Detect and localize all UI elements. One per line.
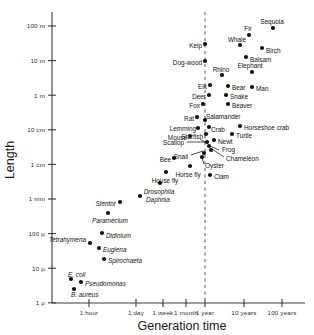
data-point-label: Horse fly [175,171,201,179]
data-point-label: Turtle [236,132,253,139]
data-point-label: Lemming [170,125,197,133]
data-point-label: Euglena [103,246,127,254]
chart-figure: 100 m10 m1 m10 cm1 cm1 mm100 µ10 µ1 µ 1 … [0,0,314,335]
data-point-label: Rhino [213,66,230,73]
data-point-label: Crab [211,126,225,133]
data-point[interactable] [212,138,216,142]
data-point-label: Man [256,85,269,92]
y-tick-label: 10 m [30,57,45,64]
data-point[interactable] [195,115,199,119]
data-point[interactable] [100,231,104,235]
data-point-label: Bee [160,156,172,163]
data-point[interactable] [79,280,83,284]
data-point[interactable] [208,173,212,177]
data-point[interactable] [250,70,254,74]
y-tick-label: 1 cm [31,161,45,168]
y-tick-label: 100 µ [28,230,45,237]
data-point-label: Kelp [189,42,202,50]
data-point[interactable] [224,93,228,97]
data-point-label: Paramecium [92,217,129,224]
data-point-label: Frog [222,146,236,154]
data-point-label: Rat [184,115,194,122]
y-tick-label: 1 m [34,92,45,99]
data-point[interactable] [230,132,234,136]
scatter-plot-canvas: 100 m10 m1 m10 cm1 cm1 mm100 µ10 µ1 µ 1 … [0,0,314,335]
label-leader-line [191,151,203,155]
data-point[interactable] [226,102,230,106]
data-point[interactable] [260,46,264,50]
data-point[interactable] [271,26,275,30]
data-point-label: Snake [230,93,249,100]
data-point[interactable] [203,42,207,46]
data-point[interactable] [201,102,205,106]
data-point-label: House fly [152,177,179,185]
data-point[interactable] [138,194,142,198]
data-point-label: Clam [214,173,229,180]
data-point-label: Daphnia [146,196,170,204]
data-point-label: Horseshoe crab [244,124,290,131]
x-tick-label: 1 week [153,309,175,316]
data-point[interactable] [202,151,206,155]
data-point-label: Newt [218,138,233,145]
x-tick-label: 1 hour [80,309,99,316]
data-point-label: E. coli [68,271,86,278]
data-point-label: Tetrahymena [49,236,87,244]
data-point[interactable] [220,73,224,77]
data-point-label: Fir [244,25,252,32]
data-point[interactable] [188,164,192,168]
y-axis-title: Length [3,141,17,179]
data-point[interactable] [207,93,211,97]
data-point[interactable] [238,124,242,128]
data-point-label: Elephant [237,62,262,70]
x-tick-label: 1 day [128,309,145,316]
y-tick-label: 10 µ [32,265,45,272]
data-point-label: Chameleon [226,155,259,162]
data-point[interactable] [209,148,213,152]
data-point[interactable] [106,211,110,215]
data-point[interactable] [203,59,207,63]
data-point[interactable] [208,83,212,87]
data-point[interactable] [247,33,251,37]
data-point-label: Dog-wood [173,59,203,67]
data-point-label: Didinium [106,232,132,239]
y-tick-label: 1 mm [29,195,45,202]
data-point[interactable] [164,170,168,174]
data-point-label: Elk [198,83,208,90]
data-point-label: Oyster [205,162,225,170]
data-point[interactable] [205,140,209,144]
data-point-label: Salamander [206,113,241,120]
data-point[interactable] [207,144,211,148]
y-tick-label: 10 cm [27,126,45,133]
data-point-label: Whale [228,36,247,43]
x-tick-label: 1 month [174,309,198,316]
x-axis-ticks: 1 hour1 day1 week1 month1 year10 years10… [80,299,297,316]
data-point-label: Starfish [181,133,203,140]
data-point[interactable] [97,246,101,250]
data-point-label: Drosophila [144,188,175,196]
data-point[interactable] [226,84,230,88]
data-point-label: Snail [174,153,188,160]
data-point-label: Pseudomonas [85,280,127,287]
data-point[interactable] [200,155,204,159]
data-point[interactable] [118,200,122,204]
data-point-label: Beaver [232,102,253,109]
data-point[interactable] [244,55,248,59]
data-point[interactable] [102,257,106,261]
data-point-label: Bear [232,84,246,91]
data-label-group: SequoiaFirWhaleBirchBalsamKelpDog-woodRh… [49,18,290,298]
data-point[interactable] [250,85,254,89]
x-tick-label: 10 years [231,309,256,316]
data-point-label: Sequoia [260,18,284,26]
data-point-label: B. aureus [71,291,99,298]
data-point-label: Birch [266,47,281,54]
data-point-label: Deer [192,93,207,100]
data-point-label: Fox [189,102,200,109]
data-point-label: Spirochaeta [108,257,143,265]
data-point-label: Scallop [163,139,184,147]
data-point[interactable] [204,132,208,136]
data-point[interactable] [238,43,242,47]
data-point[interactable] [88,241,92,245]
data-point[interactable] [196,126,200,130]
y-tick-label: 1 µ [36,299,46,306]
x-axis-title: Generation time [138,319,227,333]
